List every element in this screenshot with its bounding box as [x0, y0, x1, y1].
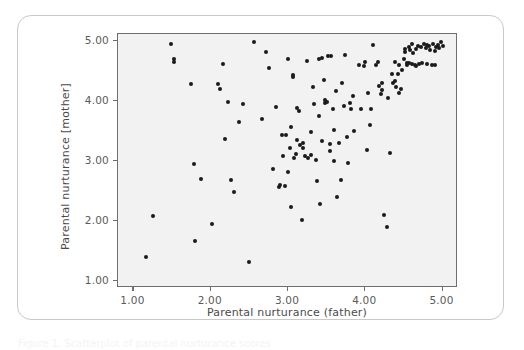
data-point	[193, 239, 197, 243]
data-point	[343, 53, 347, 57]
data-point	[399, 87, 403, 91]
data-point	[337, 141, 341, 145]
x-tick-label: 2.00	[198, 294, 222, 306]
x-tick-mark	[442, 287, 443, 291]
data-point	[264, 50, 268, 54]
data-point	[379, 92, 383, 96]
data-point	[441, 44, 445, 48]
data-point	[237, 120, 241, 124]
figure-caption: Figure 1. Scatterplot of parental nurtur…	[18, 338, 498, 350]
data-point	[300, 218, 304, 222]
data-point	[301, 141, 305, 145]
data-point	[340, 81, 344, 85]
y-axis-title: Parental nurturance [mother]	[59, 40, 72, 294]
y-tick-mark	[113, 100, 117, 101]
data-point	[199, 177, 203, 181]
data-point	[362, 64, 366, 68]
data-point	[331, 107, 335, 111]
data-point	[393, 79, 397, 83]
data-point	[329, 54, 333, 58]
data-point	[322, 78, 326, 82]
data-point	[317, 114, 321, 118]
data-point	[221, 62, 225, 66]
scatter-plot: 1.002.003.004.005.001.002.003.004.005.00…	[0, 0, 524, 350]
data-point	[411, 51, 415, 55]
data-point	[232, 190, 236, 194]
data-point	[376, 60, 380, 64]
data-point	[414, 64, 418, 68]
data-point	[368, 123, 372, 127]
y-tick-mark	[113, 280, 117, 281]
data-point	[151, 214, 155, 218]
x-tick-label: 1.00	[120, 294, 144, 306]
data-point	[397, 91, 401, 95]
x-axis-title: Parental nurturance (father)	[117, 306, 457, 319]
data-point	[339, 178, 343, 182]
data-point	[328, 142, 332, 146]
data-point	[260, 117, 264, 121]
data-point	[433, 49, 437, 53]
data-point	[410, 42, 414, 46]
data-point	[351, 94, 355, 98]
data-point	[278, 183, 282, 187]
data-point	[425, 43, 429, 47]
data-point	[394, 85, 398, 89]
data-point	[281, 154, 285, 158]
y-tick-label: 2.00	[71, 214, 109, 226]
data-point	[229, 178, 233, 182]
x-tick-label: 5.00	[429, 294, 453, 306]
data-point	[226, 100, 230, 104]
x-tick-label: 3.00	[275, 294, 299, 306]
data-point	[357, 63, 361, 67]
data-point	[380, 81, 384, 85]
data-point	[345, 135, 349, 139]
data-point	[433, 63, 437, 67]
data-point	[305, 59, 309, 63]
data-point	[400, 68, 404, 72]
data-point	[334, 89, 338, 93]
data-point	[386, 96, 390, 100]
data-point	[280, 133, 284, 137]
data-point	[397, 63, 401, 67]
data-point	[288, 146, 292, 150]
data-point	[320, 139, 324, 143]
data-point	[312, 102, 316, 106]
data-point	[320, 56, 324, 60]
data-point	[332, 128, 336, 132]
data-point	[380, 88, 384, 92]
y-tick-label: 3.00	[71, 154, 109, 166]
y-tick-label: 1.00	[71, 274, 109, 286]
data-point	[192, 162, 196, 166]
data-point	[352, 129, 356, 133]
data-point	[314, 158, 318, 162]
data-point	[349, 107, 353, 111]
data-point	[169, 42, 173, 46]
data-point	[407, 61, 411, 65]
data-point	[274, 105, 278, 109]
y-tick-mark	[113, 40, 117, 41]
data-point	[286, 170, 290, 174]
data-point	[289, 205, 293, 209]
data-point	[271, 167, 275, 171]
data-point	[289, 125, 293, 129]
y-tick-mark	[113, 160, 117, 161]
x-tick-mark	[210, 287, 211, 291]
data-point	[325, 100, 329, 104]
data-point	[247, 260, 251, 264]
data-point	[144, 255, 148, 259]
y-tick-label: 5.00	[71, 34, 109, 46]
data-point	[309, 153, 313, 157]
x-tick-mark	[132, 287, 133, 291]
data-point	[284, 133, 288, 137]
data-point	[388, 151, 392, 155]
data-point	[393, 60, 397, 64]
data-point	[332, 159, 336, 163]
x-tick-mark	[364, 287, 365, 291]
data-point	[318, 202, 322, 206]
data-point	[241, 102, 245, 106]
data-point	[294, 152, 298, 156]
data-point	[267, 66, 271, 70]
plot-frame	[117, 33, 457, 287]
data-point	[346, 161, 350, 165]
data-point	[295, 138, 299, 142]
